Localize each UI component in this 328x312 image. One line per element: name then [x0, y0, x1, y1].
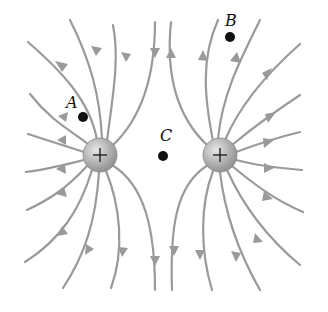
arrow-icon: [58, 112, 68, 122]
field-line: [26, 160, 84, 172]
arrow-icon: [91, 46, 102, 56]
arrow-icon: [121, 52, 131, 62]
arrow-icon: [230, 52, 241, 63]
arrow-icon: [253, 233, 263, 243]
point-a-dot: [78, 112, 88, 122]
field-line: [227, 170, 300, 265]
field-line: [28, 134, 84, 152]
field-line: [170, 22, 208, 146]
field-line: [107, 25, 116, 141]
point-b-dot: [225, 32, 235, 42]
arrow-icon: [166, 48, 176, 58]
field-line: [232, 166, 303, 212]
arrow-icon: [150, 256, 160, 266]
field-line: [203, 171, 213, 290]
field-line: [232, 95, 300, 145]
arrow-icon: [150, 48, 160, 58]
arrow-icon: [231, 251, 241, 262]
field-line: [70, 20, 102, 139]
field-line: [25, 170, 92, 262]
field-diagram: [0, 0, 328, 312]
point-b-label: B: [225, 13, 237, 29]
field-line: [218, 20, 260, 139]
field-line: [206, 20, 218, 141]
field-line: [220, 172, 260, 290]
arrow-icon: [169, 246, 179, 256]
point-a-label: A: [66, 95, 78, 111]
field-line: [112, 22, 155, 146]
arrow-icon: [265, 112, 276, 123]
field-line: [63, 172, 99, 288]
arrow-icon: [85, 244, 94, 255]
arrow-icon: [57, 226, 68, 236]
point-c-label: C: [160, 128, 172, 144]
arrow-icon: [195, 250, 205, 260]
positive-charge-right: [203, 138, 237, 172]
positive-charge-left: [83, 138, 117, 172]
arrow-icon: [264, 163, 274, 173]
field-line: [106, 171, 119, 288]
point-c-dot: [158, 151, 168, 161]
